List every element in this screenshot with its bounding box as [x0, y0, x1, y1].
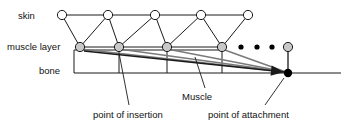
- arrow-shaft: [84, 51, 284, 72]
- mesh-edge-8: [155, 15, 167, 47]
- label-point-of-insertion: point of insertion: [93, 110, 163, 120]
- label-point-of-attachment: point of attachment: [208, 110, 289, 120]
- mesh-edge-4: [62, 15, 80, 47]
- muscle-node-2: [162, 42, 171, 51]
- mesh-edge-10: [201, 15, 222, 47]
- muscle-contraction-arrow: [84, 51, 284, 76]
- leader-point_of_insertion: [119, 53, 129, 105]
- ellipsis-dot-0: [238, 44, 243, 49]
- skin-node-2: [150, 10, 159, 19]
- ellipsis-dot-1: [254, 44, 259, 49]
- far-muscle-node: [283, 42, 292, 51]
- skin-node-3: [196, 10, 205, 19]
- muscle-node-0: [75, 42, 84, 51]
- muscle-node-3: [217, 42, 226, 51]
- skin-node-0: [57, 10, 66, 19]
- label-bone: bone: [39, 66, 60, 76]
- mesh-edge-11: [222, 15, 248, 47]
- mesh-edge-7: [119, 15, 155, 47]
- mesh-edge-9: [167, 15, 201, 47]
- mesh-edge-5: [80, 15, 108, 47]
- label-muscle-layer: muscle layer: [7, 42, 60, 52]
- label-muscle: Muscle: [182, 92, 212, 102]
- muscle-fiber-1: [119, 49, 286, 72]
- label-skin: skin: [18, 11, 35, 21]
- muscle-node-1: [114, 42, 123, 51]
- leader-point_of_attachment: [265, 78, 284, 105]
- skin-node-1: [103, 10, 112, 19]
- attachment-node: [284, 69, 292, 77]
- muscle-diagram: skin muscle layer bone point of insertio…: [0, 0, 350, 130]
- skin-node-4: [243, 10, 252, 19]
- ellipsis-dot-2: [269, 44, 274, 49]
